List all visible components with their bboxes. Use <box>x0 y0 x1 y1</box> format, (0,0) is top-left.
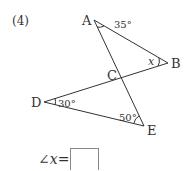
answer-box[interactable] <box>70 148 99 171</box>
angle-label-A: 35° <box>114 19 132 30</box>
point-label-D: D <box>31 95 41 110</box>
angle-arc-B <box>158 58 159 66</box>
point-label-E: E <box>147 123 157 138</box>
point-label-A: A <box>81 13 92 28</box>
point-label-B: B <box>171 56 181 71</box>
answer-prefix: ∠x= <box>38 151 69 167</box>
answer-row: ∠x= <box>38 148 99 170</box>
angle-arc-A <box>97 26 104 27</box>
angle-label-E: 50° <box>119 112 137 123</box>
angle-label-D: 30° <box>58 98 76 109</box>
segment-BD <box>44 63 168 102</box>
problem-number: (4) <box>12 14 29 28</box>
angle-arc-D <box>55 98 56 105</box>
geometry-figure: (4) A B C D E 35° x 30° 50° <box>0 0 191 170</box>
point-label-C: C <box>107 68 117 83</box>
angle-label-B: x <box>148 55 155 68</box>
